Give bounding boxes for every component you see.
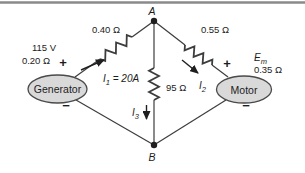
motor-resistance-label: 0.35 Ω [254, 64, 282, 75]
node-a-label: A [147, 5, 155, 17]
current-i3-label: I3 [132, 107, 140, 121]
node-a-dot [151, 18, 157, 24]
node-b-label: B [148, 151, 155, 163]
current-i2-subscript: 2 [201, 85, 207, 94]
wire-motor-to-b [154, 100, 226, 145]
generator-plus-sign: + [59, 55, 67, 70]
resistor-right-label: 0.55 Ω [201, 24, 229, 35]
motor-plus-sign: + [223, 56, 231, 71]
wire-generator-to-a [75, 59, 100, 77]
resistor-middle-label: 95 Ω [166, 82, 186, 93]
current-i2-arrow [182, 60, 198, 73]
motor-minus-sign: − [242, 98, 250, 113]
resistor-right [185, 45, 213, 65]
resistor-left-label: 0.40 Ω [92, 24, 120, 35]
wire-a-to-resistor-right [154, 21, 185, 45]
current-i3-subscript: 3 [135, 112, 140, 121]
generator-voltage-label: 115 V [32, 42, 57, 53]
resistor-left [100, 35, 132, 61]
resistor-middle [149, 68, 159, 100]
current-i1-arrow [81, 60, 104, 70]
current-i1-label: I1 = 20A [103, 73, 139, 87]
current-i2-label: I2 [199, 80, 207, 94]
current-i1-value: = 20A [110, 73, 140, 84]
generator-resistance-label: 0.20 Ω [22, 55, 50, 66]
circuit-diagram: A B Generator 115 V 0.20 Ω + − Motor Em … [0, 0, 305, 173]
figure: A B Generator 115 V 0.20 Ω + − Motor Em … [0, 0, 305, 173]
wire-generator-to-b [76, 100, 154, 145]
generator-minus-sign: − [62, 98, 70, 113]
node-b-dot [151, 142, 157, 148]
wire-resistor-left-to-a [132, 21, 154, 37]
generator-label: Generator [34, 83, 82, 95]
motor-label: Motor [231, 84, 258, 96]
